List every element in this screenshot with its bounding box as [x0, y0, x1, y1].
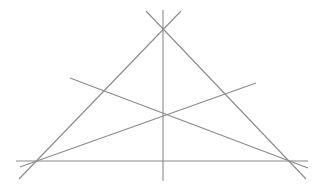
right-side-line	[146, 11, 306, 179]
left-side-line	[19, 11, 181, 179]
cevian-to-left-vertex-line	[20, 83, 256, 167]
cevian-to-right-vertex-line	[70, 78, 308, 168]
geometry-diagram	[0, 0, 324, 190]
